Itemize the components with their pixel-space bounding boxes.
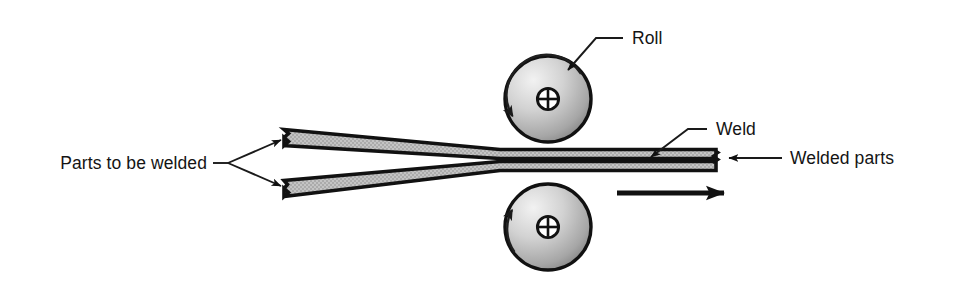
parts-to-be-welded-leader xyxy=(213,140,281,186)
roll-label: Roll xyxy=(632,28,663,48)
upper-plate xyxy=(284,130,716,159)
parts-to-be-welded-label: Parts to be welded xyxy=(60,153,207,173)
lower-roll xyxy=(505,184,591,270)
upper-roll-center-icon xyxy=(537,88,558,109)
weld-label: Weld xyxy=(716,119,756,139)
diagram-canvas: Roll Weld Parts to be welded Welded part… xyxy=(0,0,961,289)
upper-plate-body xyxy=(284,130,716,159)
lower-roll-center-icon xyxy=(537,216,558,237)
welded-parts-label: Welded parts xyxy=(790,148,894,168)
upper-roll xyxy=(505,55,591,142)
roll-welding-diagram: Roll Weld Parts to be welded Welded part… xyxy=(0,0,961,289)
